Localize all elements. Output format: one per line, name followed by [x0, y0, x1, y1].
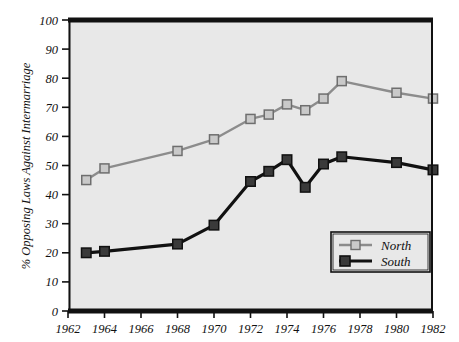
x-tick-label: 1970 [202, 322, 228, 336]
y-axis-title: % Opposing Laws Against Intermarriage [19, 62, 33, 269]
line-chart: 0102030405060708090100 19621964196619681… [0, 0, 459, 342]
data-point-south-1973 [264, 167, 274, 177]
x-tick-label: 1980 [384, 322, 410, 336]
x-tick-label: 1964 [92, 322, 117, 336]
data-point-south-1975 [301, 183, 311, 193]
data-point-north-1970 [210, 135, 219, 144]
data-point-north-1976 [319, 94, 328, 103]
data-point-south-1972 [246, 177, 256, 187]
y-tick-label: 0 [52, 305, 59, 319]
y-tick-label: 70 [46, 101, 59, 115]
legend-label-south: South [381, 254, 411, 269]
y-tick-label: 10 [46, 275, 59, 289]
y-tick-label: 20 [46, 246, 59, 260]
y-tick-label: 50 [46, 159, 59, 173]
x-tick-label: 1968 [165, 322, 191, 336]
data-point-north-1968 [173, 146, 182, 155]
y-tick-label: 30 [45, 217, 59, 231]
data-point-north-1975 [301, 106, 310, 115]
chart-legend: North South [331, 232, 430, 272]
y-tick-label: 40 [46, 188, 59, 202]
data-point-north-1964 [100, 164, 109, 173]
data-point-south-1970 [209, 220, 219, 230]
data-point-north-1963 [82, 176, 91, 185]
data-point-south-1964 [100, 247, 110, 257]
y-tick-label: 80 [46, 72, 59, 86]
data-point-south-1974 [282, 155, 292, 165]
data-point-north-1973 [264, 110, 273, 119]
x-tick-label: 1972 [238, 322, 263, 336]
x-tick-label: 1974 [275, 322, 300, 336]
data-point-south-1977 [337, 152, 347, 162]
x-tick-label: 1976 [311, 322, 337, 336]
x-tick-label: 1978 [348, 322, 374, 336]
data-point-north-1972 [246, 114, 255, 123]
x-axis-tick-labels: 1962196419661968197019721974197619781980… [56, 322, 446, 336]
x-tick-label: 1966 [129, 322, 155, 336]
legend-marker-south [340, 256, 350, 266]
data-point-north-1977 [337, 77, 346, 86]
data-point-south-1980 [392, 158, 402, 168]
y-tick-label: 100 [39, 14, 59, 28]
legend-marker-north [351, 241, 360, 250]
legend-label-north: North [380, 238, 411, 253]
y-tick-label: 90 [46, 43, 59, 57]
y-tick-label: 60 [46, 130, 59, 144]
chart-figure: 0102030405060708090100 19621964196619681… [0, 0, 459, 342]
x-tick-label: 1982 [421, 322, 446, 336]
x-tick-label: 1962 [56, 322, 81, 336]
data-point-south-1968 [173, 239, 183, 249]
data-point-north-1974 [283, 100, 292, 109]
data-point-south-1963 [82, 248, 92, 257]
data-point-south-1976 [319, 159, 329, 169]
data-point-north-1980 [392, 88, 401, 97]
